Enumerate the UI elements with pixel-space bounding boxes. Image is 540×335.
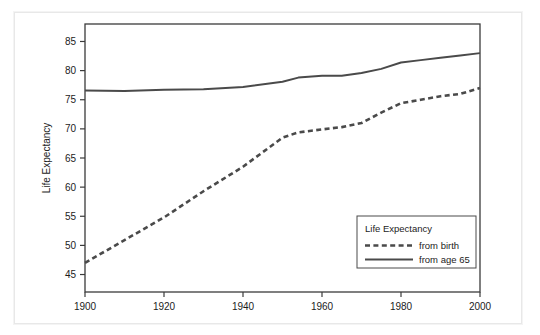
y-tick-label: 75 (65, 94, 77, 105)
legend-label-from-birth: from birth (419, 240, 459, 251)
y-tick-label: 55 (65, 211, 77, 222)
life-expectancy-line-chart: 455055606570758085 190019201940196019802… (0, 0, 540, 335)
x-tick-label: 1940 (232, 301, 255, 312)
legend-title: Life Expectancy (365, 223, 432, 234)
y-tick-label: 45 (65, 269, 77, 280)
y-axis: 455055606570758085 (65, 36, 85, 280)
y-tick-label: 85 (65, 36, 77, 47)
y-tick-label: 50 (65, 240, 77, 251)
x-tick-label: 1920 (153, 301, 176, 312)
x-tick-label: 1960 (311, 301, 334, 312)
y-axis-title: Life Expectancy (41, 123, 52, 194)
y-tick-label: 70 (65, 123, 77, 134)
x-axis: 190019201940196019802000 (74, 292, 492, 312)
y-tick-label: 65 (65, 153, 77, 164)
series-line-from-age-65 (85, 53, 480, 91)
x-tick-label: 1980 (390, 301, 413, 312)
x-tick-label: 2000 (469, 301, 492, 312)
legend-label-from-age-65: from age 65 (419, 254, 470, 265)
chart-legend: Life Expectancy from birth from age 65 (357, 216, 476, 268)
y-tick-label: 60 (65, 182, 77, 193)
figure-root: 455055606570758085 190019201940196019802… (0, 0, 540, 335)
y-tick-label: 80 (65, 65, 77, 76)
x-tick-label: 1900 (74, 301, 97, 312)
